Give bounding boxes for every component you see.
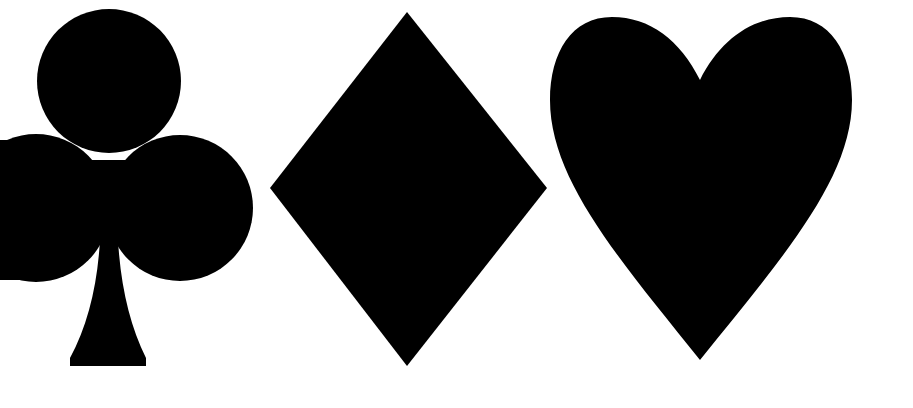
suits-svg [0,0,913,408]
card-suits-canvas: Club Diamond Heart [0,0,913,408]
